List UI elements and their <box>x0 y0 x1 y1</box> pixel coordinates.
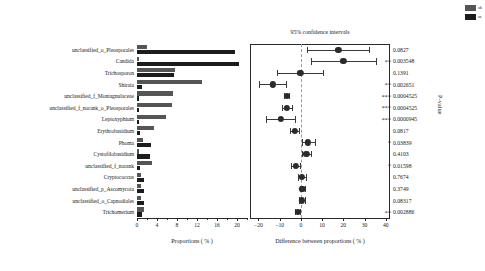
ci-lower-cap <box>266 116 267 122</box>
ci-upper-cap <box>286 81 287 87</box>
bar-row <box>137 137 247 149</box>
ci-point-estimate <box>303 151 309 157</box>
ci-row <box>250 79 390 91</box>
significance-marker <box>372 172 392 184</box>
significance-column: ***************** <box>372 44 392 218</box>
bar-sh <box>137 207 144 211</box>
pvalue-text: 0.0827 <box>393 44 441 56</box>
bar-sc <box>137 120 139 124</box>
taxa-label: Trichosporon <box>0 67 137 79</box>
taxa-label: unclassified_p_Ascomycota <box>0 183 137 195</box>
axis-tick <box>217 218 218 221</box>
taxa-label: unclassified_o_Capnodiales <box>0 195 137 207</box>
bar-sh <box>137 196 141 200</box>
ci-row <box>250 125 390 137</box>
bar-sc <box>137 154 150 158</box>
significance-marker: ** <box>372 206 392 218</box>
axis-tick-label: 12 <box>194 222 200 228</box>
pvalue-text: 0.0004525 <box>393 90 441 102</box>
bar-sh <box>137 149 139 153</box>
significance-marker: * <box>372 137 392 149</box>
ci-x-axis-title: Difference between proportions ( % ) <box>250 238 390 244</box>
bar-row <box>137 160 247 172</box>
bar-row <box>137 172 247 184</box>
bar-sh <box>137 115 166 119</box>
pvalue-text: 0.3749 <box>393 183 441 195</box>
bar-row <box>137 67 247 79</box>
bar-x-axis-title: Proportions ( % ) <box>137 238 247 244</box>
ci-point-estimate <box>335 47 341 53</box>
ci-lower-cap <box>311 58 312 64</box>
significance-marker: *** <box>372 114 392 126</box>
ci-row <box>250 56 390 68</box>
axis-tick-label: 0 <box>136 222 139 228</box>
significance-marker <box>372 183 392 195</box>
figure-root: shsc unclassified_o_PleosporalesCandidaT… <box>0 0 485 271</box>
pvalue-text: 0.4103 <box>393 148 441 160</box>
pvalue-text: 0.08317 <box>393 195 441 207</box>
ci-upper-cap <box>306 174 307 180</box>
bar-row <box>137 195 247 207</box>
taxa-label-column: unclassified_o_PleosporalesCandidaTricho… <box>0 44 137 218</box>
ci-row <box>250 195 390 207</box>
taxa-label: unclassified_f_norank <box>0 160 137 172</box>
bar-sh <box>137 184 141 188</box>
axis-tick <box>197 218 198 221</box>
ci-upper-cap <box>369 47 370 53</box>
bar-sc <box>137 85 142 89</box>
taxa-label: Cystofilobasidium <box>0 148 137 160</box>
ci-row <box>250 137 390 149</box>
ci-row <box>250 114 390 126</box>
axis-tick-label: −20 <box>254 222 263 228</box>
bar-row <box>137 79 247 91</box>
pvalue-text: 0.0004525 <box>393 102 441 114</box>
ci-row <box>250 172 390 184</box>
ci-lower-cap <box>277 70 278 76</box>
legend-swatch-sc <box>465 14 476 20</box>
taxa-label: unclassified_f_Montagnulaceae <box>0 90 137 102</box>
ci-point-estimate <box>297 70 303 76</box>
significance-marker: ** <box>372 56 392 68</box>
ci-point-estimate <box>270 81 276 87</box>
ci-upper-cap <box>300 163 301 169</box>
bar-sc <box>137 131 140 135</box>
bar-row <box>137 56 247 68</box>
bar-sh <box>137 68 175 72</box>
axis-tick <box>365 218 366 221</box>
ci-row <box>250 102 390 114</box>
ci-plot-panel <box>250 44 390 218</box>
ci-panel-title: 95% confidence intervals <box>250 29 390 35</box>
taxa-label: Phoma <box>0 137 137 149</box>
axis-tick <box>237 218 238 221</box>
bar-x-axis-tick-labels: 048121620 <box>137 222 247 232</box>
axis-tick-minor <box>207 218 208 220</box>
taxa-label: Shiraia <box>0 79 137 91</box>
bar-row <box>137 206 247 218</box>
axis-tick-label: 20 <box>341 222 347 228</box>
significance-marker: ** <box>372 79 392 91</box>
taxa-label: Candida <box>0 56 137 68</box>
significance-marker <box>372 44 392 56</box>
ci-upper-cap <box>315 139 316 145</box>
ci-point-estimate <box>305 139 311 145</box>
taxa-label: Cryptococcus <box>0 172 137 184</box>
bar-sc <box>137 166 140 170</box>
axis-tick-label: −10 <box>275 222 284 228</box>
ci-lower-cap <box>302 139 303 145</box>
ci-x-axis-tick-labels: −20−10010203040 <box>250 222 390 232</box>
axis-tick <box>157 218 158 221</box>
ci-row <box>250 67 390 79</box>
bar-sh <box>137 173 141 177</box>
bar-sh <box>137 103 172 107</box>
significance-marker <box>372 195 392 207</box>
legend-item: sc <box>465 13 482 20</box>
ci-lower-cap <box>259 81 260 87</box>
bar-sh <box>137 91 173 95</box>
significance-marker: * <box>372 160 392 172</box>
legend-label: sh <box>478 5 482 11</box>
ci-upper-cap <box>305 197 306 203</box>
ci-point-estimate <box>292 128 298 134</box>
legend: shsc <box>465 4 482 20</box>
ci-lower-cap <box>282 105 283 111</box>
bar-sc <box>137 50 235 54</box>
